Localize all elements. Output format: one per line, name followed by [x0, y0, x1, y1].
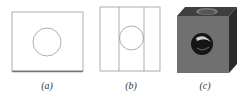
- panel-a-drawing: [12, 12, 83, 72]
- caption-a: (a): [27, 80, 67, 91]
- panel-c-cube: [177, 7, 237, 73]
- caption-c: (c): [185, 80, 225, 91]
- panel-b-drawing: [100, 7, 160, 71]
- caption-b: (b): [111, 80, 151, 91]
